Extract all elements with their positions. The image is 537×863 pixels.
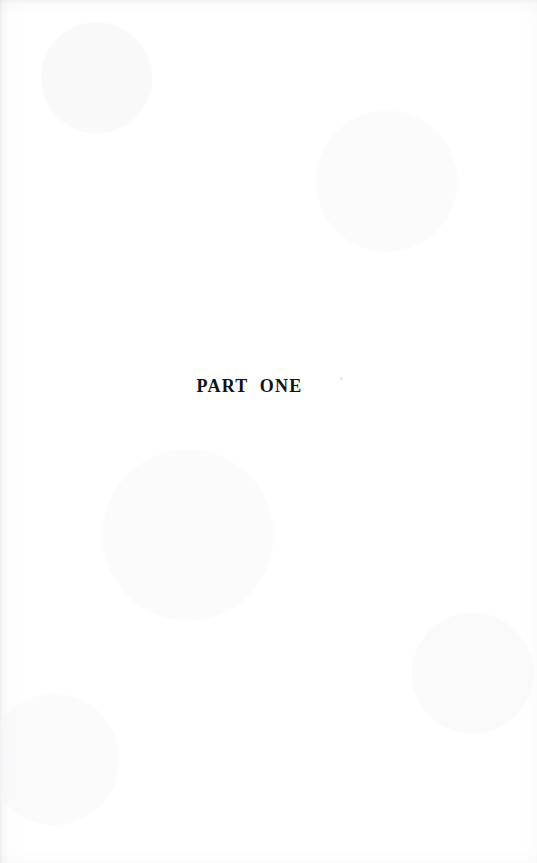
paper-edge-shading: [0, 0, 537, 863]
paper-grain: [0, 0, 537, 863]
part-title: PART ONE: [0, 373, 537, 399]
scanned-page: PART ONE: [0, 0, 537, 863]
